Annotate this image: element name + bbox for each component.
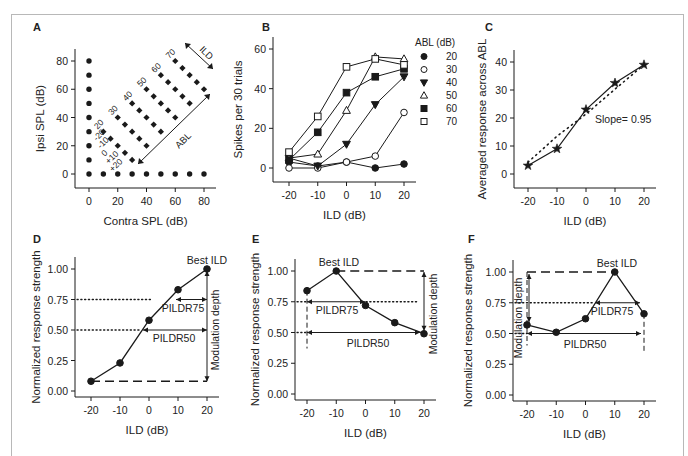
x-tick-label: 10 (609, 408, 621, 420)
x-tick-label: 20 (638, 408, 650, 420)
x-tick-label: -20 (83, 404, 98, 416)
binaural-point (158, 72, 164, 78)
x-tick-label: 0 (146, 404, 152, 416)
best-ild-label: Best ILD (597, 257, 638, 269)
pildr50-label: PILDR50 (153, 332, 196, 344)
y-tick-label: 80 (56, 55, 68, 67)
y-tick-label: 1.00 (48, 263, 69, 275)
square-marker (343, 64, 350, 71)
pildr50-label: PILDR50 (347, 337, 390, 349)
y-tick-label: 0.75 (486, 297, 507, 309)
panel-b-spike-counts: B0204060-20-1001020ILD (dB)Spikes per 30… (232, 21, 458, 221)
monaural-point (86, 58, 91, 63)
monaural-point (101, 171, 106, 176)
pildr75-label: PILDR75 (591, 305, 634, 317)
binaural-point (172, 58, 178, 64)
legend-label: 20 (446, 51, 458, 62)
pildr75-label: PILDR75 (162, 302, 205, 314)
y-axis-title: Normalized response strength (30, 250, 42, 403)
binaural-point (129, 100, 135, 106)
circle-marker (304, 287, 311, 294)
y-tick-label: 0.50 (268, 327, 289, 339)
y-tick-label: 20 (254, 122, 266, 134)
binaural-point (158, 100, 164, 106)
binaural-point (172, 114, 178, 120)
panel-label: C (485, 21, 493, 33)
binaural-point (143, 143, 149, 149)
y-tick-label: 0.75 (268, 296, 289, 308)
legend-label: 30 (446, 64, 458, 75)
monaural-point (129, 171, 134, 176)
legend-title: ABL (dB) (415, 37, 455, 48)
y-tick-label: 60 (56, 83, 68, 95)
circle-marker (372, 165, 379, 172)
x-tick-label: 10 (172, 404, 184, 416)
x-tick-label: -10 (310, 189, 325, 201)
binaural-point (187, 100, 193, 106)
panel-label: F (468, 233, 475, 245)
y-tick-label: 0.25 (48, 355, 69, 367)
monaural-point (86, 115, 91, 120)
binaural-point (136, 107, 142, 113)
ild-arrow-label: ILD (198, 44, 216, 62)
triangle-up-marker (343, 106, 351, 113)
y-tick-label: 0 (62, 168, 68, 180)
legend-label: 40 (446, 77, 458, 88)
abl-arrow-label: ABL (173, 130, 193, 150)
circle-marker (175, 286, 182, 293)
x-axis-title: ILD (dB) (323, 209, 366, 221)
x-tick-label: 40 (141, 195, 153, 207)
x-axis-title: Contra SPL (dB) (104, 215, 188, 227)
y-tick-label: 20 (56, 140, 68, 152)
circle-marker (524, 322, 531, 329)
square-marker (401, 62, 408, 69)
binaural-point (136, 136, 142, 142)
circle-marker (401, 161, 408, 168)
x-tick-label: 0 (344, 189, 350, 201)
binaural-point (143, 114, 149, 120)
y-tick-label: 40 (254, 83, 266, 95)
x-tick-label: -20 (519, 408, 534, 420)
legend-label: 60 (446, 103, 458, 114)
y-tick-label: 0.50 (48, 324, 69, 336)
square-marker (372, 56, 379, 63)
x-tick-label: 20 (398, 189, 410, 201)
arrowhead-left (307, 299, 312, 304)
arrowhead-up (422, 272, 427, 277)
x-tick-label: 10 (389, 407, 401, 419)
y-axis-title: Normalized response strength (462, 254, 474, 407)
circle-marker (204, 266, 211, 273)
square-marker (421, 106, 427, 112)
legend-label: 50 (446, 90, 458, 101)
legend-label: 70 (446, 116, 458, 127)
panel-label: A (33, 21, 41, 33)
x-tick-label: 20 (201, 404, 213, 416)
y-tick-label: 30 (495, 84, 507, 96)
square-marker (421, 119, 427, 125)
modulation-depth-label: Modulation depth (209, 290, 221, 371)
best-ild-label: Best ILD (187, 254, 228, 266)
binaural-point (187, 72, 193, 78)
panel-c-averaged-response: C010203040-20-1001020ILD (dB)Averaged re… (476, 21, 656, 227)
slope-annotation: Slope= 0.95 (595, 113, 652, 125)
arrowhead-right (636, 331, 641, 336)
x-axis-title: ILD (dB) (344, 427, 387, 439)
binaural-point (122, 150, 128, 156)
pildr75-label: PILDR75 (316, 304, 359, 316)
panel-label: E (252, 233, 259, 245)
binaural-point (179, 65, 185, 71)
best-ild-label: Best ILD (319, 256, 360, 268)
square-marker (372, 73, 379, 80)
y-tick-label: 0.00 (268, 388, 289, 400)
panel-label: B (262, 21, 270, 33)
circle-marker (333, 268, 340, 275)
x-tick-label: -10 (329, 407, 344, 419)
x-tick-label: -20 (281, 189, 296, 201)
y-axis-title: Averaged response across ABL (476, 38, 488, 199)
monaural-point (187, 171, 192, 176)
y-tick-label: 0.25 (486, 358, 507, 370)
x-tick-label: 0 (363, 407, 369, 419)
arrowhead-left (527, 331, 532, 336)
x-tick-label: 60 (169, 195, 181, 207)
